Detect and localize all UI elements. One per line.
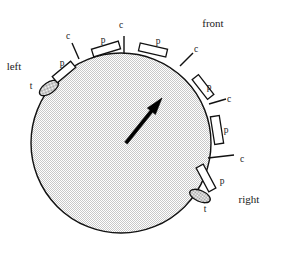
marker-label-t-right: t xyxy=(204,204,207,214)
marker-p-right-lower: p xyxy=(210,115,228,144)
orientation-label-right: right xyxy=(239,193,260,205)
marker-label-p-right-lower: p xyxy=(224,125,229,135)
marker-c-upper-right: c xyxy=(180,44,198,66)
marker-label-c-right-low: c xyxy=(240,154,244,164)
marker-label-p-upper-left: p xyxy=(60,58,65,68)
circular-disc-diagram: tpcpcpcpcpcpt frontleftright xyxy=(0,0,285,255)
tick-line-c-upper-right xyxy=(180,53,193,66)
marker-label-t-left: t xyxy=(30,81,33,91)
diagram-root: tpcpcpcpcpcpt frontleftright xyxy=(0,0,285,255)
orientation-label-left: left xyxy=(7,60,22,72)
marker-label-c-top: c xyxy=(119,20,123,30)
marker-label-p-top-left: p xyxy=(101,35,106,45)
marker-label-c-upper-right: c xyxy=(194,44,198,54)
tick-line-c-upper-left xyxy=(72,43,79,59)
marker-c-upper-left: c xyxy=(66,31,79,59)
marker-label-c-right-mid: c xyxy=(227,94,231,104)
marker-p-top-right: p xyxy=(138,36,167,57)
marker-c-right-low: c xyxy=(208,154,244,164)
orientation-label-front: front xyxy=(202,17,223,29)
tick-line-c-right-mid xyxy=(209,99,226,104)
marker-box-p-top-right xyxy=(138,43,167,57)
marker-label-p-top-right: p xyxy=(156,36,161,46)
marker-label-p-lower-right: p xyxy=(220,176,225,186)
marker-label-p-right-upper: p xyxy=(207,82,212,92)
marker-label-c-upper-left: c xyxy=(66,31,70,41)
marker-box-p-right-lower xyxy=(210,115,223,144)
tick-line-c-right-low xyxy=(208,155,234,158)
